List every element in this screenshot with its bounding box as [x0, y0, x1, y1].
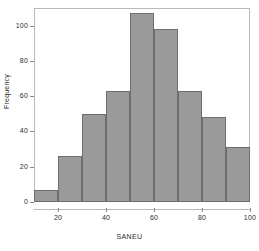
- x-tick-label: 100: [244, 213, 256, 222]
- y-tick-label: 60: [20, 91, 28, 100]
- histogram-bar: [178, 91, 202, 202]
- y-tick-mark: [30, 131, 34, 132]
- y-tick-label: 100: [16, 21, 28, 30]
- x-tick-label: 40: [102, 213, 110, 222]
- x-axis-spine: [34, 209, 250, 210]
- x-tick-mark: [58, 208, 59, 212]
- y-tick-mark: [30, 96, 34, 97]
- x-axis-title: SANEU: [0, 233, 259, 240]
- y-tick-label: 40: [20, 126, 28, 135]
- plot-area: [34, 8, 250, 202]
- histogram-bar: [58, 156, 82, 202]
- x-tick-label: 60: [150, 213, 158, 222]
- histogram-bar: [154, 29, 178, 202]
- x-axis: 20406080100: [0, 202, 259, 232]
- x-tick-label: 20: [54, 213, 62, 222]
- x-tick-mark: [154, 208, 155, 212]
- y-axis-tick: 100: [0, 26, 34, 27]
- histogram-bar: [34, 190, 58, 202]
- x-tick-label: 80: [198, 213, 206, 222]
- x-tick-mark: [202, 208, 203, 212]
- y-tick-mark: [30, 26, 34, 27]
- y-tick-label: 80: [20, 56, 28, 65]
- x-tick-mark: [106, 208, 107, 212]
- histogram-chart: 020406080100 20406080100 Frequency SANEU: [0, 0, 259, 251]
- y-axis-title: Frequency: [3, 62, 10, 122]
- histogram-bar: [130, 13, 154, 202]
- histogram-bar: [226, 147, 250, 202]
- histogram-bar: [106, 91, 130, 202]
- y-axis-tick: 20: [0, 167, 34, 168]
- y-tick-mark: [30, 61, 34, 62]
- histogram-bar: [82, 114, 106, 202]
- x-tick-mark: [250, 208, 251, 212]
- histogram-bar: [202, 117, 226, 202]
- y-tick-mark: [30, 167, 34, 168]
- y-tick-label: 20: [20, 162, 28, 171]
- y-axis-tick: 40: [0, 131, 34, 132]
